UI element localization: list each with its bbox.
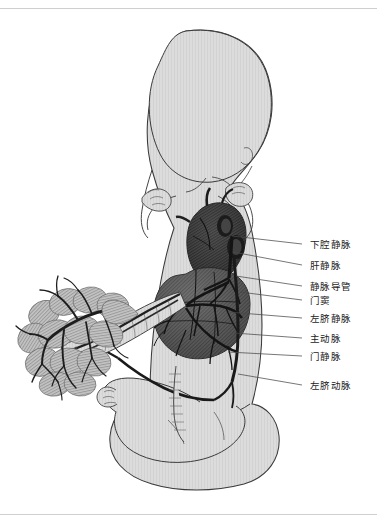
label-hepatic-vein: 肝静脉 [310, 260, 341, 271]
label-ivc: 下腔静脉 [310, 239, 352, 250]
label-aorta: 主动脉 [310, 333, 341, 344]
label-ductus-venosus: 静脉导管 [310, 281, 352, 292]
label-left-umb-artery: 左脐动脉 [310, 380, 352, 391]
label-left-umb-vein: 左脐静脉 [310, 313, 352, 324]
label-portal-sinus: 门窦 [310, 295, 331, 306]
label-portal-vein: 门静脉 [310, 351, 341, 362]
figure-canvas: 下腔静脉肝静脉静脉导管门窦左脐静脉主动脉门静脉左脐动脉 [0, 0, 377, 531]
